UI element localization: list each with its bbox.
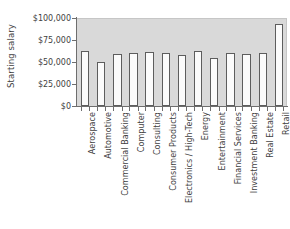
x-axis-tick-labels: AerospaceAutomotiveCommercial BankingCom… [77,112,287,227]
x-axis-tick-mark [275,107,276,111]
y-axis-title-text: Starting salary [6,24,16,88]
x-axis-tick-mark [226,107,227,111]
x-axis-tick-mark [194,107,195,111]
bar-slot [81,18,89,106]
bar-slot [129,18,137,106]
bar-slot [97,18,105,106]
x-axis-tick-mark [138,107,139,111]
y-axis-tick-mark [72,84,77,85]
x-axis-tick-mark [235,107,236,111]
x-axis-tick-mark [162,107,163,111]
x-axis-tick-mark [202,107,203,111]
x-axis-tick-label: Computer [137,112,146,152]
bar-slot [145,18,153,106]
x-axis-tick-mark [145,107,146,111]
x-axis-tick-mark [122,107,123,111]
bar-slot [178,18,186,106]
x-axis-tick-label: Energy [201,112,210,140]
y-axis-tick-label: $50,000 [38,58,71,67]
x-axis-tick-mark [283,107,284,111]
x-axis-tick-mark [129,107,130,111]
bar-slot [275,18,283,106]
bar [210,58,218,106]
x-axis-tick-mark [105,107,106,111]
x-axis-tick-label: Consulting [153,112,162,155]
x-axis-tick-mark [259,107,260,111]
y-axis-title: Starting salary [0,0,22,112]
bar-chart-figure: Starting salary $100,000$75,000$50,000$2… [0,0,290,229]
x-axis-tick-mark [81,107,82,111]
x-axis-tick-mark [267,107,268,111]
x-axis-tick-label: Entertainment [218,112,227,170]
y-axis-tick-label: $75,000 [38,36,71,45]
x-axis-tick-mark [186,107,187,111]
bar [194,51,202,106]
bar-slot [226,18,234,106]
bar [145,52,153,106]
x-axis-tick-mark [89,107,90,111]
x-axis-tick-mark [170,107,171,111]
bar [178,55,186,106]
bar [129,53,137,106]
x-axis-tick-label: Electronics / High-Tech [185,112,194,203]
x-axis-tick-label: Investment Banking [250,112,259,193]
x-axis-tick-label: Commercial Banking [121,112,130,196]
bar [259,53,267,106]
y-axis-tick-label: $25,000 [38,80,71,89]
y-axis-tick-labels: $100,000$75,000$50,000$25,000$0 [20,18,74,106]
x-axis-line [76,106,288,107]
bar-slot [259,18,267,106]
x-axis-tick-mark [113,107,114,111]
y-axis-tick-label: $0 [61,102,71,111]
x-axis-tick-label: Financial Services [234,112,243,184]
bars-layer [77,18,287,106]
bar-slot [242,18,250,106]
x-axis-tick-mark [154,107,155,111]
bar [81,51,89,106]
bar-slot [210,18,218,106]
x-axis-tick-mark [251,107,252,111]
bar-slot [113,18,121,106]
bar-slot [194,18,202,106]
x-axis-tick-label: Automotive [104,112,113,159]
bar-slot [162,18,170,106]
x-axis-tick-mark [178,107,179,111]
x-axis-tick-mark [210,107,211,111]
x-axis-tick-mark [97,107,98,111]
bar [113,54,121,106]
y-axis-tick-mark [72,18,77,19]
bar [97,62,105,106]
x-axis-tick-label: Consumer Products [169,112,178,191]
bar [226,53,234,106]
x-axis-tick-mark [219,107,220,111]
x-axis-tick-label: Retail [282,112,290,135]
y-axis-tick-label: $100,000 [33,14,71,23]
bar [162,53,170,106]
bar [275,24,283,106]
y-axis-tick-mark [72,62,77,63]
y-axis-tick-mark [72,106,77,107]
bar [242,54,250,106]
x-axis-tick-mark [242,107,243,111]
x-axis-tick-label: Real Estate [266,112,275,158]
y-axis-tick-mark [72,40,77,41]
x-axis-tick-label: Aerospace [88,112,97,154]
